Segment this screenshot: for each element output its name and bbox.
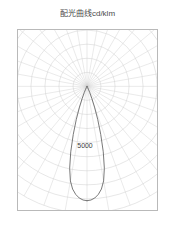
polar-plot-frame: 5000 [17,29,158,211]
svg-text:5000: 5000 [77,142,92,149]
light-distribution-polar-chart: 5000 [18,30,157,210]
page-title: 配光曲线cd/klm [0,9,175,19]
polar-grid-rings [18,30,157,210]
value-label-5000: 5000 [77,142,92,149]
polar-grid-spokes [18,30,157,210]
